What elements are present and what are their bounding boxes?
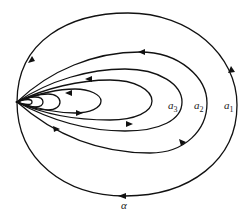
label-a1-sub: 1 (230, 105, 234, 114)
label-a2: a2 (194, 100, 204, 114)
orbit-alpha (17, 13, 237, 196)
label-alpha: α (121, 200, 127, 211)
arrow-icon (126, 121, 133, 127)
arrow-icon (65, 90, 72, 96)
label-a3: a3 (168, 100, 178, 114)
arrow-icon (138, 49, 145, 55)
label-a3-sub: 3 (174, 105, 178, 114)
orbit-a1 (17, 52, 207, 153)
label-a1: a1 (224, 100, 234, 114)
orbit-inner-1 (17, 89, 101, 113)
arrow-icon (76, 110, 83, 116)
orbit-a3 (17, 80, 152, 120)
label-a2-sub: 2 (200, 105, 204, 114)
phase-portrait (0, 0, 250, 217)
